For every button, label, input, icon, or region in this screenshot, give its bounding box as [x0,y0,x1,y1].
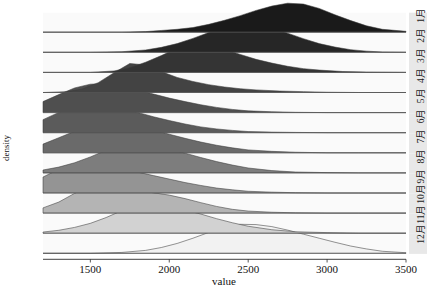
x-axis-title: value [212,275,236,287]
facet-label-5月: 5月 [416,88,426,103]
facet-label-11月: 11月 [416,205,426,224]
facet-label-8月: 8月 [416,149,426,164]
facet-label-9月: 9月 [416,169,426,184]
facet-label-4月: 4月 [416,68,426,83]
facet-label-10月: 10月 [416,184,426,204]
facet-label-1月: 1月 [416,8,426,23]
facet-label-2月: 2月 [416,28,426,43]
x-tick-label-3500: 3500 [395,263,418,275]
facet-label-7月: 7月 [416,129,426,144]
facet-label-12月: 12月 [416,224,426,244]
density-ridgeline-plot: 1月2月3月4月5月6月7月8月9月10月11月12月 150020002500… [0,0,446,296]
y-axis-title: density [1,135,11,161]
x-tick-label-2000: 2000 [158,263,181,275]
facet-label-3月: 3月 [416,48,426,63]
x-tick-label-3000: 3000 [316,263,339,275]
facet-label-6月: 6月 [416,109,426,124]
x-tick-label-2500: 2500 [237,263,260,275]
ridgeline-chart-root: 1月2月3月4月5月6月7月8月9月10月11月12月 150020002500… [0,0,446,296]
x-tick-label-1500: 1500 [79,263,102,275]
